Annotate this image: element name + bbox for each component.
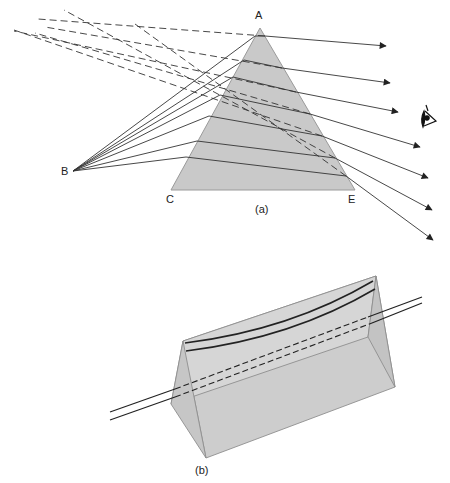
label-a: A [255,9,263,21]
panel-a: A B C E (a) [14,9,436,240]
prism-refraction-figure: A B C E (a) (b) [0,0,450,483]
label-e: E [348,193,355,205]
caption-a: (a) [255,203,268,215]
panel-b: (b) [110,276,422,476]
label-c: C [166,193,174,205]
caption-b: (b) [195,464,208,476]
eye-icon [422,105,436,127]
label-b: B [61,165,68,177]
